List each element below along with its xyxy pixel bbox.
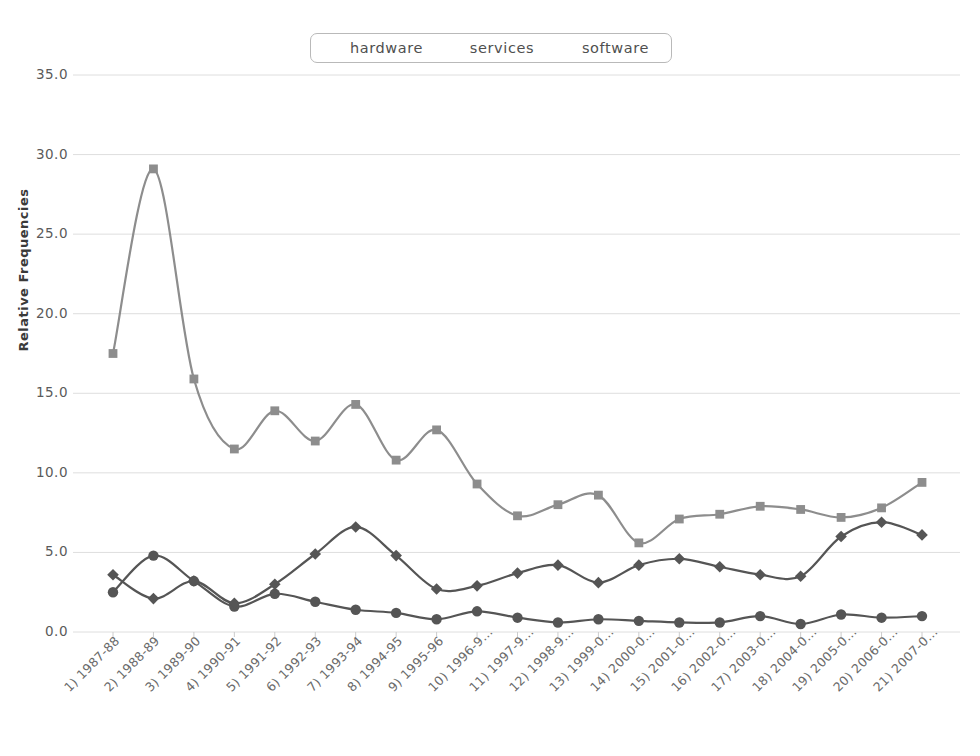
data-point [795, 571, 807, 583]
plot-area [0, 0, 980, 756]
data-point [472, 606, 482, 616]
data-point [634, 616, 644, 626]
data-point [876, 516, 888, 528]
data-point [270, 406, 279, 415]
data-point [795, 619, 805, 629]
data-point [756, 502, 765, 511]
data-point [876, 612, 886, 622]
data-point [108, 587, 118, 597]
series-line-software [113, 169, 922, 544]
data-point [269, 578, 281, 590]
data-point [917, 611, 927, 621]
data-point [109, 349, 118, 358]
data-point [837, 513, 846, 522]
data-point [552, 559, 564, 571]
data-point [432, 425, 441, 434]
data-point [916, 529, 928, 541]
data-point [149, 164, 158, 173]
series-line-services [113, 522, 922, 603]
data-point [513, 511, 522, 520]
data-point [554, 500, 563, 509]
data-point [351, 605, 361, 615]
data-point [633, 559, 645, 571]
data-point [674, 553, 686, 565]
data-point [796, 505, 805, 514]
data-point [350, 521, 362, 533]
data-point [674, 617, 684, 627]
data-point [836, 609, 846, 619]
data-point [270, 589, 280, 599]
data-point [918, 478, 927, 487]
data-point [877, 503, 886, 512]
data-point [471, 580, 483, 592]
data-point [310, 597, 320, 607]
data-point [675, 515, 684, 524]
series-services [107, 516, 928, 609]
data-point [311, 437, 320, 446]
data-point [755, 611, 765, 621]
data-point [351, 400, 360, 409]
series-software [109, 164, 927, 547]
data-point [593, 614, 603, 624]
data-point [431, 583, 443, 595]
gridlines [73, 75, 960, 632]
data-point [634, 538, 643, 547]
data-point [512, 612, 522, 622]
data-point [754, 569, 766, 581]
data-point [714, 561, 726, 573]
data-point [148, 593, 160, 605]
data-point [593, 577, 605, 589]
data-point [512, 567, 524, 579]
series-hardware [108, 550, 927, 629]
data-point [190, 375, 199, 384]
data-point [431, 614, 441, 624]
data-point [391, 608, 401, 618]
data-point [473, 480, 482, 489]
data-point [230, 445, 239, 454]
data-point [148, 550, 158, 560]
data-point [715, 510, 724, 519]
data-point [715, 617, 725, 627]
data-point [553, 617, 563, 627]
x-axis-ticks [113, 632, 922, 637]
data-point [594, 491, 603, 500]
chart-container: hardware services software Relative Freq… [0, 0, 980, 756]
data-point [392, 456, 401, 465]
